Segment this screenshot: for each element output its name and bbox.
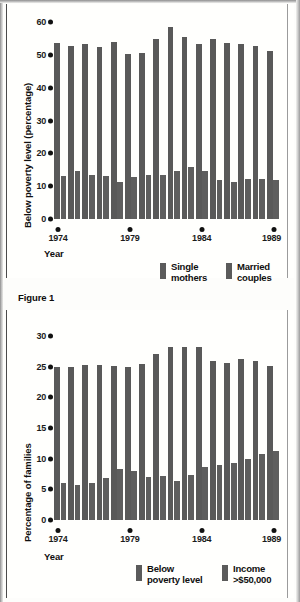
y-tick-dot-25	[48, 364, 53, 369]
x-tick-dot-1989	[271, 528, 276, 533]
bar-1989-married-couples	[273, 180, 279, 219]
x-axis-title: Year	[44, 248, 64, 259]
bar-1977-single-mothers	[97, 47, 103, 219]
bar-1988-below-poverty-level	[253, 361, 259, 520]
bar-1989-single-mothers	[267, 51, 273, 219]
bar-1974-income-50-000	[61, 483, 67, 520]
y-tick-dot-0	[48, 217, 53, 222]
chart-poverty-by-family-type: Below poverty level (percentage) 0 10 20…	[0, 0, 300, 280]
y-tick-label-50: 50	[26, 50, 46, 60]
figure-page: Below poverty level (percentage) 0 10 20…	[0, 0, 300, 602]
bar-1978-married-couples	[117, 182, 123, 219]
chart-legend: Single mothers Married couples	[160, 262, 292, 283]
x-tick-label-1989: 1989	[262, 233, 281, 243]
bar-1979-married-couples	[131, 177, 137, 219]
legend-swatch-income-over-50000	[222, 565, 228, 581]
x-tick-label-1979: 1979	[120, 534, 139, 544]
bar-1983-below-poverty-level	[182, 347, 188, 520]
bar-1981-single-mothers	[153, 39, 159, 219]
x-tick-label-1974: 1974	[48, 534, 67, 544]
bar-1980-below-poverty-level	[139, 364, 145, 520]
bar-1985-income-50-000	[217, 465, 223, 520]
bar-1983-married-couples	[188, 167, 194, 219]
legend-item-income-over-50000: Income >$50,000	[222, 564, 294, 585]
bar-1983-single-mothers	[182, 37, 188, 219]
bar-1978-below-poverty-level	[111, 366, 117, 520]
legend-item-married-couples: Married couples	[226, 262, 292, 283]
bar-1976-single-mothers	[82, 44, 88, 219]
bar-1980-income-50-000	[146, 477, 152, 520]
y-tick-label-25: 25	[26, 362, 46, 372]
y-tick-label-10: 10	[26, 181, 46, 191]
y-tick-label-30: 30	[26, 116, 46, 126]
y-tick-label-20: 20	[26, 392, 46, 402]
x-tick-label-1989: 1989	[262, 534, 281, 544]
bar-1982-married-couples	[174, 171, 180, 219]
chart-legend: Below poverty level Income >$50,000	[136, 564, 294, 585]
bar-1984-below-poverty-level	[196, 347, 202, 520]
bar-1985-married-couples	[217, 180, 223, 219]
bar-1986-below-poverty-level	[224, 363, 230, 520]
bar-1985-below-poverty-level	[210, 361, 216, 520]
bar-1986-married-couples	[231, 182, 237, 219]
chart-families-poverty-and-high-income: Percentage of families 0 5 10 15 20 25 3…	[0, 306, 300, 602]
legend-label-married-couples: Married couples	[237, 262, 272, 283]
bar-1989-below-poverty-level	[267, 366, 273, 520]
bar-1977-married-couples	[103, 176, 109, 219]
bar-1981-married-couples	[160, 175, 166, 219]
y-tick-dot-10	[48, 184, 53, 189]
bar-1988-single-mothers	[253, 46, 259, 219]
legend-item-single-mothers: Single mothers	[160, 262, 226, 283]
x-tick-dot-1974	[56, 528, 61, 533]
y-tick-label-10: 10	[26, 454, 46, 464]
bar-1988-income-50-000	[259, 454, 265, 520]
bar-1988-married-couples	[259, 179, 265, 219]
bar-1976-married-couples	[89, 175, 95, 219]
x-tick-dot-1989	[271, 227, 276, 232]
bar-1975-married-couples	[75, 171, 81, 219]
bar-1981-below-poverty-level	[153, 354, 159, 520]
bar-1975-income-50-000	[75, 485, 81, 520]
bar-1975-single-mothers	[68, 46, 74, 219]
bar-1976-below-poverty-level	[82, 365, 88, 520]
bar-1984-single-mothers	[196, 44, 202, 219]
bar-1982-income-50-000	[174, 481, 180, 520]
bar-1974-married-couples	[61, 176, 67, 219]
bar-1980-married-couples	[146, 175, 152, 219]
legend-label-income-over-50000: Income >$50,000	[233, 564, 271, 585]
bar-1979-single-mothers	[125, 54, 131, 219]
legend-swatch-below-poverty-level	[136, 565, 142, 581]
y-tick-dot-30	[48, 118, 53, 123]
bar-1979-below-poverty-level	[125, 367, 131, 520]
y-tick-label-60: 60	[26, 17, 46, 27]
bar-1977-income-50-000	[103, 478, 109, 520]
y-tick-label-30: 30	[26, 331, 46, 341]
x-tick-dot-1984	[199, 227, 204, 232]
y-tick-dot-40	[48, 85, 53, 90]
y-tick-dot-20	[48, 151, 53, 156]
y-tick-dot-0	[48, 518, 53, 523]
plot-area	[54, 336, 281, 520]
figure-caption: Figure 1	[18, 292, 54, 303]
x-axis-title: Year	[44, 551, 64, 562]
legend-swatch-single-mothers	[160, 263, 166, 279]
y-tick-dot-15	[48, 426, 53, 431]
x-tick-dot-1974	[56, 227, 61, 232]
bar-1979-income-50-000	[131, 471, 137, 520]
legend-label-below-poverty-level: Below poverty level	[147, 564, 203, 585]
legend-label-single-mothers: Single mothers	[171, 262, 207, 283]
x-tick-dot-1979	[127, 227, 132, 232]
x-tick-label-1984: 1984	[192, 534, 211, 544]
plot-area	[54, 22, 281, 219]
bar-1989-income-50-000	[273, 451, 279, 520]
legend-item-below-poverty-level: Below poverty level	[136, 564, 222, 585]
x-tick-label-1974: 1974	[48, 233, 67, 243]
y-tick-dot-5	[48, 487, 53, 492]
y-tick-dot-10	[48, 456, 53, 461]
bar-1981-income-50-000	[160, 476, 166, 520]
bar-1982-single-mothers	[168, 27, 174, 219]
bar-1977-below-poverty-level	[97, 365, 103, 520]
y-tick-dot-20	[48, 395, 53, 400]
bar-1978-income-50-000	[117, 469, 123, 520]
x-tick-dot-1979	[127, 528, 132, 533]
